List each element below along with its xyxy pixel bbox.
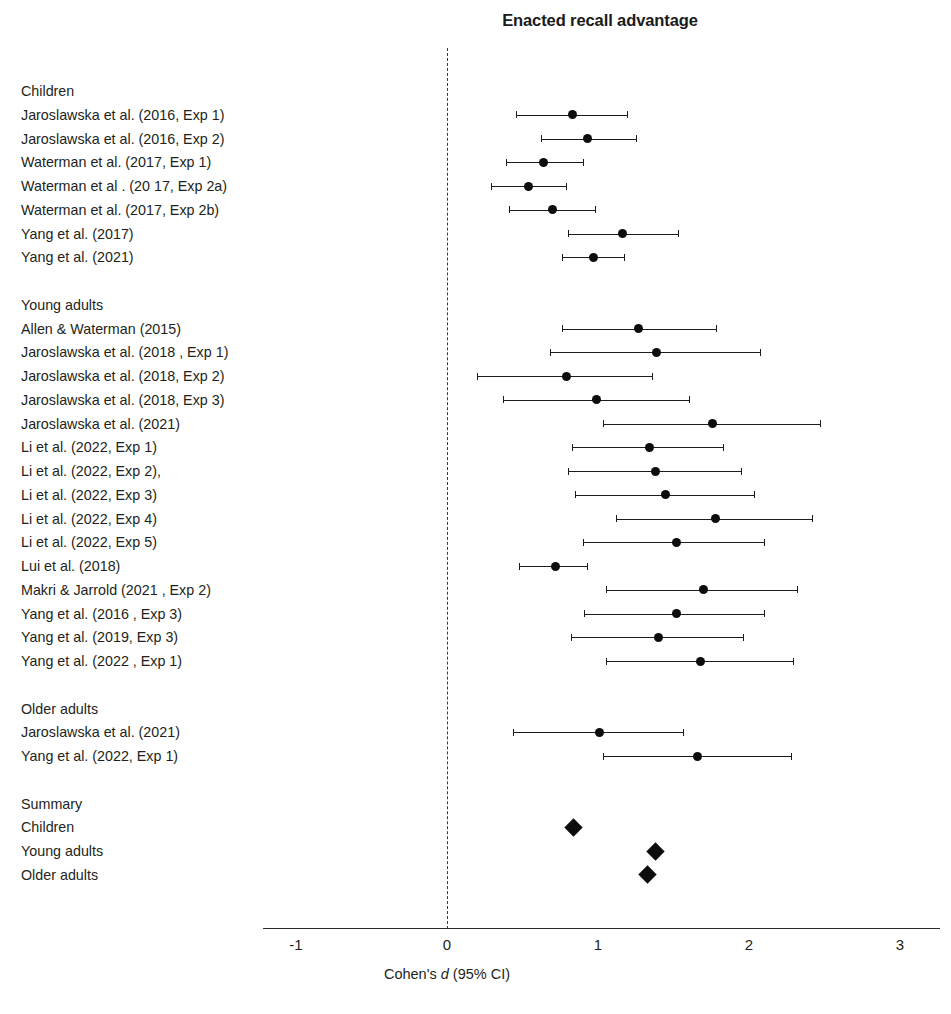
effect-size-point — [693, 752, 702, 761]
ci-lower-cap — [616, 515, 617, 522]
ci-lower-cap — [513, 729, 514, 736]
ci-lower-cap — [519, 563, 520, 570]
effect-size-point — [652, 348, 661, 357]
ci-upper-cap — [741, 468, 742, 475]
effect-size-point — [592, 395, 601, 404]
ci-lower-cap — [571, 634, 572, 641]
study-row-label: Yang et al. (2021) — [21, 250, 421, 264]
ci-lower-cap — [603, 753, 604, 760]
summary-effect-diamond — [565, 818, 583, 836]
ci-lower-cap — [583, 539, 584, 546]
study-row-label: Jaroslawska et al. (2021) — [21, 725, 421, 739]
ci-upper-cap — [689, 396, 690, 403]
ci-upper-cap — [627, 111, 628, 118]
ci-lower-cap — [477, 373, 478, 380]
effect-size-point — [654, 633, 663, 642]
ci-upper-cap — [791, 753, 792, 760]
ci-lower-cap — [603, 420, 604, 427]
effect-size-point — [583, 134, 592, 143]
ci-lower-cap — [575, 491, 576, 498]
x-axis-label-text: Cohen's d (95% CI) — [384, 966, 510, 982]
ci-upper-cap — [587, 563, 588, 570]
ci-upper-cap — [678, 230, 679, 237]
study-row-label: Yang et al. (2022, Exp 1) — [21, 749, 421, 763]
ci-lower-cap — [562, 325, 563, 332]
effect-size-point — [645, 443, 654, 452]
study-row-label: Makri & Jarrold (2021 , Exp 2) — [21, 583, 421, 597]
study-row-label: Waterman et al . (20 17, Exp 2a) — [21, 179, 421, 193]
ci-upper-cap — [566, 183, 567, 190]
effect-size-point — [524, 182, 533, 191]
ci-upper-cap — [583, 159, 584, 166]
study-row-label: Jaroslawska et al. (2018, Exp 2) — [21, 369, 421, 383]
ci-upper-cap — [683, 729, 684, 736]
effect-size-point — [661, 490, 670, 499]
ci-lower-cap — [506, 159, 507, 166]
study-row-label: Jaroslawska et al. (2016, Exp 2) — [21, 132, 421, 146]
group-header-label: Children — [21, 84, 421, 98]
x-tick-label: 0 — [417, 936, 477, 953]
effect-size-point — [548, 205, 557, 214]
effect-size-point — [699, 585, 708, 594]
figure-caption — [24, 1002, 924, 1014]
summary-row-label: Children — [21, 820, 421, 834]
ci-upper-cap — [793, 658, 794, 665]
x-tick-label: 2 — [719, 936, 779, 953]
ci-lower-cap — [572, 444, 573, 451]
ci-upper-cap — [595, 206, 596, 213]
x-axis-label: Cohen's d (95% CI) — [297, 966, 597, 982]
effect-size-point — [562, 372, 571, 381]
ci-lower-cap — [509, 206, 510, 213]
study-row-label: Li et al. (2022, Exp 1) — [21, 440, 421, 454]
effect-size-point — [651, 467, 660, 476]
summary-effect-diamond — [646, 842, 664, 860]
ci-upper-cap — [764, 539, 765, 546]
ci-lower-cap — [568, 468, 569, 475]
study-row-label: Waterman et al. (2017, Exp 1) — [21, 155, 421, 169]
ci-upper-cap — [760, 349, 761, 356]
study-row-label: Li et al. (2022, Exp 5) — [21, 535, 421, 549]
ci-upper-cap — [652, 373, 653, 380]
study-row-label: Waterman et al. (2017, Exp 2b) — [21, 203, 421, 217]
effect-size-point — [634, 324, 643, 333]
effect-size-point — [672, 538, 681, 547]
effect-size-point — [672, 609, 681, 618]
effect-size-point — [708, 419, 717, 428]
study-row-label: Jaroslawska et al. (2016, Exp 1) — [21, 108, 421, 122]
study-row-label: Jaroslawska et al. (2018, Exp 3) — [21, 393, 421, 407]
study-row-label: Li et al. (2022, Exp 3) — [21, 488, 421, 502]
ci-upper-cap — [820, 420, 821, 427]
study-row-label: Jaroslawska et al. (2021) — [21, 417, 421, 431]
effect-size-point — [539, 158, 548, 167]
ci-lower-cap — [550, 349, 551, 356]
page-title: Enacted recall advantage — [420, 11, 780, 30]
ci-lower-cap — [568, 230, 569, 237]
ci-upper-cap — [764, 610, 765, 617]
ci-lower-cap — [541, 135, 542, 142]
study-row-label: Yang et al. (2019, Exp 3) — [21, 630, 421, 644]
effect-size-point — [568, 110, 577, 119]
study-row-label: Yang et al. (2022 , Exp 1) — [21, 654, 421, 668]
effect-size-point — [551, 562, 560, 571]
ci-upper-cap — [797, 586, 798, 593]
group-header-label: Summary — [21, 797, 421, 811]
ci-lower-cap — [606, 586, 607, 593]
ci-upper-cap — [716, 325, 717, 332]
study-row-label: Li et al. (2022, Exp 2), — [21, 464, 421, 478]
effect-size-point — [711, 514, 720, 523]
ci-lower-cap — [562, 254, 563, 261]
ci-lower-cap — [516, 111, 517, 118]
ci-lower-cap — [503, 396, 504, 403]
study-row-label: Li et al. (2022, Exp 4) — [21, 512, 421, 526]
ci-upper-cap — [812, 515, 813, 522]
ci-upper-cap — [636, 135, 637, 142]
x-tick-label: -1 — [266, 936, 326, 953]
ci-lower-cap — [606, 658, 607, 665]
ci-lower-cap — [584, 610, 585, 617]
study-row-label: Yang et al. (2016 , Exp 3) — [21, 607, 421, 621]
study-row-label: Yang et al. (2017) — [21, 227, 421, 241]
effect-size-point — [595, 728, 604, 737]
ci-upper-cap — [743, 634, 744, 641]
zero-reference-line — [447, 48, 448, 929]
study-row-label: Allen & Waterman (2015) — [21, 322, 421, 336]
